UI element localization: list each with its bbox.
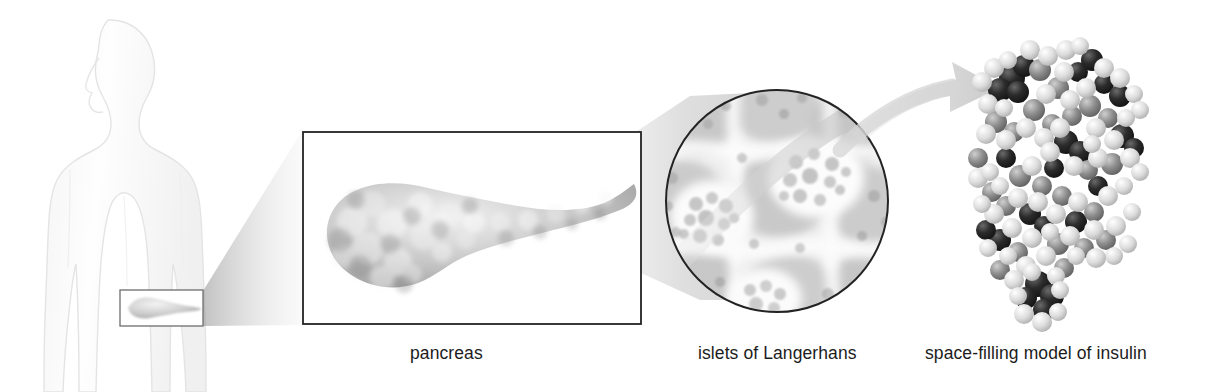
wedge-shape [203,131,302,326]
body-silhouette [44,20,206,392]
wedge-body-to-pancreas [203,131,302,326]
torso-center-line [124,196,127,286]
caption-pancreas: pancreas [410,345,483,363]
figure-root: pancreas islets of Langerhans space-fill… [0,0,1214,392]
illustration-layer [0,0,1214,392]
caption-space-filling-model-of-insulin: space-filling model of insulin [925,345,1147,363]
arrow-shaft [840,86,952,150]
body-inset-box [120,290,203,326]
insulin-model [968,37,1149,332]
islet-cluster-3 [726,268,802,328]
pancreas-box [303,132,641,324]
caption-islets-of-langerhans: islets of Langerhans [698,345,857,363]
